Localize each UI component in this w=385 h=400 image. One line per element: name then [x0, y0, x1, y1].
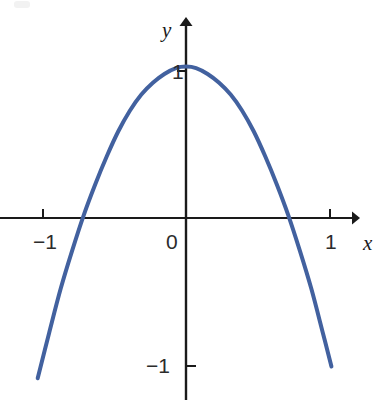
y-tick-label-neg1: −1 — [146, 355, 170, 376]
x-axis-label: x — [363, 233, 372, 254]
x-tick-label-1: 1 — [325, 231, 337, 252]
plot-canvas — [0, 0, 385, 400]
parabola-figure: y x −1 0 1 1 −1 — [0, 0, 385, 400]
x-tick-label-neg1: −1 — [33, 231, 57, 252]
y-axis-arrowhead — [180, 17, 193, 26]
x-axis-arrowhead — [352, 212, 360, 225]
y-axis-label: y — [162, 20, 171, 41]
parabola-curve — [38, 67, 332, 379]
y-tick-label-1: 1 — [172, 61, 184, 82]
origin-label: 0 — [166, 231, 178, 252]
